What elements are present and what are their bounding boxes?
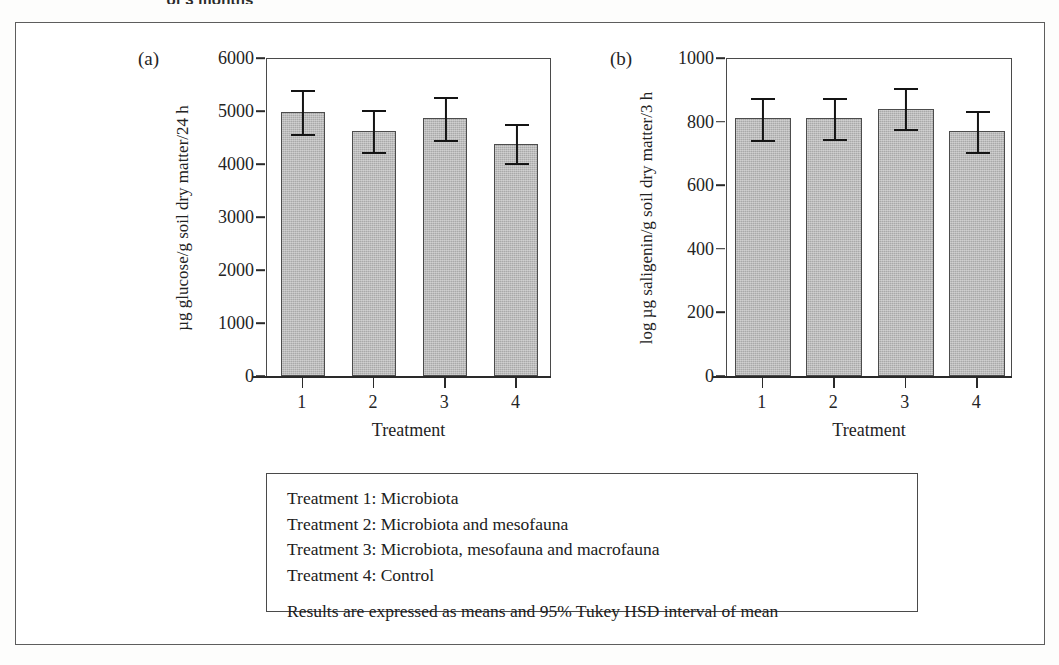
error-bar-cap: [966, 152, 990, 154]
x-tick-label: 3: [900, 392, 909, 413]
y-tick-mark: [716, 121, 725, 123]
error-bar-cap: [823, 98, 847, 100]
x-tick-mark: [444, 378, 446, 388]
y-tick-label: 600: [687, 175, 714, 196]
y-tick-label: 1000: [218, 313, 254, 334]
legend-line: Treatment 1: Microbiota: [287, 486, 917, 512]
y-tick-label: 2000: [218, 260, 254, 281]
x-tick-mark: [976, 378, 978, 388]
error-bar-line: [762, 98, 764, 142]
y-tick-mark: [256, 322, 265, 324]
y-tick-label: 800: [687, 111, 714, 132]
error-bar-cap: [362, 110, 386, 112]
error-bar-cap: [434, 97, 458, 99]
y-tick-label: 3000: [218, 207, 254, 228]
error-bar: [516, 124, 517, 165]
y-tick-label: 5000: [218, 101, 254, 122]
x-tick-label: 2: [829, 392, 838, 413]
panel-b-plot-area: [726, 58, 1012, 376]
bar: [878, 109, 934, 376]
error-bar-cap: [291, 90, 315, 92]
bar: [806, 118, 862, 376]
y-tick-label: 4000: [218, 154, 254, 175]
y-tick-label: 6000: [218, 48, 254, 69]
legend-box: Treatment 1: Microbiota Treatment 2: Mic…: [266, 473, 918, 612]
y-tick-mark: [256, 57, 265, 59]
error-bar-line: [302, 90, 304, 136]
panel-a-y-ticks: 6000500040003000200010000: [206, 40, 264, 380]
error-bar: [445, 97, 446, 143]
error-bar-cap: [966, 111, 990, 113]
x-tick-mark: [515, 378, 517, 388]
panel-a-tag: (a): [138, 48, 159, 70]
legend-line: Treatment 3: Microbiota, mesofauna and m…: [287, 537, 917, 563]
error-bar: [763, 98, 764, 142]
legend-line: Treatment 4: Control: [287, 563, 917, 589]
y-tick-mark: [716, 184, 725, 186]
panel-b-x-axis-title: Treatment: [832, 420, 905, 441]
panel-b-y-ticks: 10008006004002000: [666, 40, 724, 380]
legend-line: Treatment 2: Microbiota and mesofauna: [287, 512, 917, 538]
y-tick-mark: [716, 57, 725, 59]
x-tick-label: 3: [440, 392, 449, 413]
error-bar: [977, 111, 978, 155]
y-tick-mark: [716, 248, 725, 250]
x-tick-mark: [762, 378, 764, 388]
x-tick-mark: [905, 378, 907, 388]
error-bar-cap: [505, 163, 529, 165]
y-tick-label: 200: [687, 302, 714, 323]
error-bar: [906, 88, 907, 131]
error-bar: [834, 98, 835, 141]
y-tick-mark: [256, 269, 265, 271]
error-bar-line: [373, 110, 375, 155]
x-tick-label: 1: [757, 392, 766, 413]
error-bar-cap: [823, 139, 847, 141]
error-bar-cap: [505, 124, 529, 126]
y-tick-mark: [256, 163, 265, 165]
panel-a-x-axis-title: Treatment: [372, 420, 445, 441]
y-tick-mark: [716, 312, 725, 314]
error-bar: [303, 90, 304, 136]
error-bar-line: [905, 88, 907, 131]
panel-a-y-axis-title: µg glucose/g soil dry matter/24 h: [172, 58, 193, 378]
x-tick-mark: [833, 378, 835, 388]
error-bar-cap: [362, 152, 386, 154]
x-tick-label: 4: [972, 392, 981, 413]
y-tick-mark: [256, 110, 265, 112]
bar: [423, 118, 467, 376]
x-tick-label: 2: [368, 392, 377, 413]
error-bar-cap: [751, 98, 775, 100]
panel-b-tag: (b): [610, 48, 632, 70]
error-bar-line: [445, 97, 447, 143]
error-bar-cap: [894, 129, 918, 131]
panel-a: (a) µg glucose/g soil dry matter/24 h 60…: [128, 40, 568, 440]
y-tick-label: 400: [687, 238, 714, 259]
panel-a-bars: [267, 59, 550, 376]
x-tick-label: 1: [297, 392, 306, 413]
figure-page: of 3 months (a) µg glucose/g soil dry ma…: [0, 0, 1059, 665]
error-bar-cap: [291, 134, 315, 136]
bar: [281, 112, 325, 376]
error-bar-line: [834, 98, 836, 141]
panel-a-plot-area: [266, 58, 551, 376]
x-axis-line: [712, 376, 1012, 378]
caption-fragment: of 3 months: [0, 0, 420, 4]
x-tick-label: 4: [511, 392, 520, 413]
error-bar-line: [516, 124, 518, 165]
bar: [949, 131, 1005, 376]
legend-note: Results are expressed as means and 95% T…: [287, 601, 917, 622]
y-tick-label: 1000: [678, 48, 714, 69]
x-tick-mark: [373, 378, 375, 388]
panel-b-y-axis-title: log µg saligenin/g soil dry matter/3 h: [636, 58, 657, 378]
error-bar-cap: [434, 140, 458, 142]
bar: [735, 118, 791, 376]
panel-b-bars: [727, 59, 1011, 376]
error-bar-line: [977, 111, 979, 155]
y-tick-mark: [256, 216, 265, 218]
error-bar-cap: [751, 140, 775, 142]
bar: [494, 144, 538, 376]
x-axis-line: [252, 376, 551, 378]
bar: [352, 131, 396, 376]
error-bar-cap: [894, 88, 918, 90]
x-tick-mark: [302, 378, 304, 388]
